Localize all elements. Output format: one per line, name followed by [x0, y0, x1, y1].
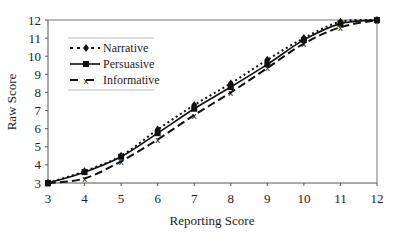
data-point-informative: x	[374, 16, 380, 26]
legend-marker	[83, 61, 89, 67]
series-line-narrative	[48, 20, 377, 183]
data-point-informative: x	[192, 111, 198, 121]
series-line-persuasive	[48, 20, 377, 183]
x-tick-label: 5	[118, 191, 125, 206]
legend-label: Persuasive	[103, 57, 154, 71]
data-point-informative: x	[82, 174, 88, 184]
y-tick-label: 5	[35, 139, 42, 154]
x-tick-label: 4	[81, 191, 88, 206]
series-informative: xxxxxxxxxx	[45, 16, 380, 189]
data-point-informative: x	[265, 63, 271, 73]
chart: 3456789101112 3456789101112 xxxxxxxxxx R…	[0, 0, 395, 241]
y-tick-label: 9	[35, 67, 42, 82]
x-tick-label: 3	[45, 191, 52, 206]
y-tick-labels: 3456789101112	[28, 13, 42, 191]
x-tick-label: 10	[297, 191, 310, 206]
series-narrative	[45, 16, 380, 187]
data-point-informative: x	[338, 23, 344, 33]
data-point-informative: x	[118, 157, 124, 167]
series-line-informative	[48, 20, 377, 183]
x-tick-labels: 3456789101112	[45, 191, 384, 206]
axes	[45, 20, 377, 186]
y-axis-title: Raw Score	[4, 73, 19, 130]
x-tick-label: 6	[154, 191, 161, 206]
legend-item-informative: xInformative	[70, 73, 160, 87]
legend-marker	[83, 44, 89, 52]
series-layer: xxxxxxxxxx	[45, 16, 380, 189]
y-tick-label: 10	[28, 49, 41, 64]
x-tick-label: 9	[264, 191, 271, 206]
legend-label: Informative	[103, 73, 160, 87]
y-tick-label: 12	[28, 13, 41, 28]
y-tick-label: 11	[28, 31, 41, 46]
data-point-informative: x	[155, 135, 161, 145]
data-point-informative: x	[228, 88, 234, 98]
series-persuasive	[45, 17, 380, 186]
x-tick-label: 12	[371, 191, 384, 206]
legend-label: Narrative	[103, 41, 148, 55]
x-tick-label: 7	[191, 191, 198, 206]
x-tick-label: 11	[334, 191, 347, 206]
y-tick-label: 6	[35, 121, 42, 136]
y-tick-label: 7	[35, 103, 42, 118]
x-tick-label: 8	[228, 191, 235, 206]
legend: NarrativePersuasivexInformative	[68, 38, 160, 90]
legend-marker: x	[83, 76, 89, 86]
legend-item-narrative: Narrative	[70, 41, 148, 55]
legend-item-persuasive: Persuasive	[70, 57, 154, 71]
data-point-informative: x	[301, 39, 307, 49]
y-tick-label: 3	[35, 176, 42, 191]
x-axis-title: Reporting Score	[170, 213, 255, 228]
y-tick-label: 4	[35, 157, 42, 172]
data-point-informative: x	[45, 179, 51, 189]
y-tick-label: 8	[35, 85, 42, 100]
